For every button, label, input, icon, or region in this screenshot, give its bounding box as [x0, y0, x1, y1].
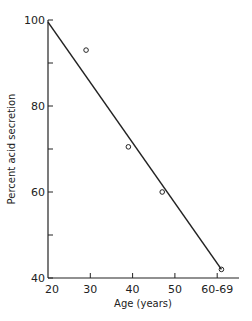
- data-point: [84, 48, 89, 53]
- y-tick-label: 80: [31, 100, 45, 113]
- plot-area: [48, 22, 224, 272]
- y-tick-label: 60: [31, 186, 45, 199]
- regression-line: [48, 22, 221, 269]
- data-point: [160, 190, 165, 195]
- x-axis-title: Age (years): [114, 298, 172, 309]
- data-point: [126, 145, 131, 150]
- x-tick-label: 60-69: [201, 283, 233, 296]
- x-tick-label: 50: [168, 283, 182, 296]
- y-tick-label: 100: [24, 14, 45, 27]
- x-tick-label: 40: [126, 283, 140, 296]
- chart: 4060801002030405060-69 Age (years) Perce…: [0, 0, 252, 321]
- axes: 4060801002030405060-69: [24, 14, 239, 296]
- x-tick-label: 30: [83, 283, 97, 296]
- x-tick-label: 20: [45, 283, 59, 296]
- y-axis-title: Percent acid secretion: [6, 94, 17, 205]
- y-tick-label: 40: [31, 272, 45, 285]
